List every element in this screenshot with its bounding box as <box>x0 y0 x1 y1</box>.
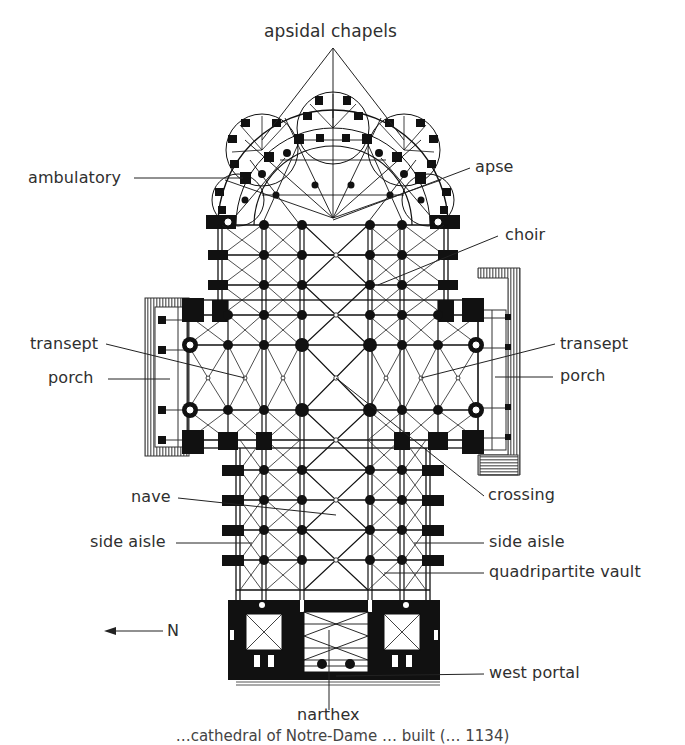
label-transept-right: transept <box>560 335 628 353</box>
right-porch-frame <box>478 268 520 475</box>
label-narthex: narthex <box>297 706 360 724</box>
label-side-aisle-left: side aisle <box>90 533 166 551</box>
label-quadripartite-vault: quadripartite vault <box>489 563 641 581</box>
label-ambulatory: ambulatory <box>28 169 121 187</box>
label-choir: choir <box>505 226 545 244</box>
piers <box>182 220 484 566</box>
label-crossing: crossing <box>488 486 555 504</box>
label-side-aisle-right: side aisle <box>489 533 565 551</box>
west-front <box>228 600 440 685</box>
label-transept-left: transept <box>30 335 98 353</box>
main-vessel-ribs <box>304 225 368 590</box>
label-nave: nave <box>131 488 171 506</box>
label-apse: apse <box>475 158 514 176</box>
vault-keystones <box>206 253 460 562</box>
label-west-portal: west portal <box>489 664 580 682</box>
label-apsidal-chapels: apsidal chapels <box>264 22 397 40</box>
figure-caption-clipped: …cathedral of Notre-Dame … built (… 1134… <box>0 727 685 745</box>
label-porch-right: porch <box>560 367 606 385</box>
label-north: N <box>167 622 179 640</box>
north-arrow-icon <box>104 627 163 635</box>
label-porch-left: porch <box>48 369 94 387</box>
